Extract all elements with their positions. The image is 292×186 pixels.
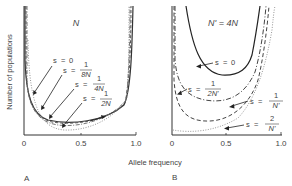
svg-text:=: = [91, 94, 96, 103]
label-b-s2: s = 1 N' [250, 91, 283, 110]
panel-a-letter: A [24, 174, 30, 183]
svg-text:s: s [246, 120, 250, 129]
svg-text:=: = [258, 97, 263, 106]
svg-text:s: s [75, 80, 79, 89]
svg-text:1: 1 [104, 89, 108, 98]
panel-b-tick-1: 1.0 [275, 139, 287, 148]
x-axis-label: Allele frequency [128, 158, 182, 167]
figure-canvas: N s = 0 s = 1 8N s = 1 4N s = 1 2N [0, 0, 292, 186]
label-b-s3: s = 2 N' [246, 114, 279, 133]
panel-b-tick-0: 0 [170, 139, 175, 148]
svg-text:s: s [53, 56, 57, 65]
svg-text:s: s [188, 85, 192, 94]
svg-text:=: = [196, 85, 201, 94]
svg-text:N': N' [273, 101, 280, 110]
svg-text:=: = [254, 120, 259, 129]
panel-a-tick-1: 1.0 [130, 139, 142, 148]
svg-text:2N': 2N' [206, 89, 219, 98]
svg-text:s: s [215, 58, 219, 67]
svg-text:=: = [61, 56, 66, 65]
svg-text:2N: 2N [100, 99, 111, 108]
svg-text:4N: 4N [94, 84, 104, 93]
y-axis-label: Number of populations [5, 34, 14, 110]
svg-text:8N: 8N [81, 70, 91, 79]
svg-text:=: = [223, 58, 228, 67]
panel-a: N s = 0 s = 1 8N s = 1 4N s = 1 2N [22, 6, 142, 183]
svg-text:1: 1 [84, 60, 88, 69]
label-a-s0: s = 0 [53, 56, 73, 65]
panel-b-title: N' = 4N [208, 18, 238, 28]
svg-text:s: s [83, 94, 87, 103]
svg-text:1: 1 [211, 79, 215, 88]
svg-text:0: 0 [69, 56, 73, 65]
panel-a-tick-0: 0 [22, 139, 27, 148]
panel-b-tick-05: 0.5 [220, 139, 232, 148]
svg-text:2: 2 [270, 114, 274, 123]
svg-text:1: 1 [274, 91, 278, 100]
svg-text:N': N' [269, 124, 276, 133]
panel-b: N' = 4N s = 0 s = 1 2N' s = 1 N' s = 2 N… [170, 6, 287, 182]
svg-text:s: s [250, 97, 254, 106]
svg-text:=: = [83, 80, 88, 89]
svg-text:=: = [71, 66, 76, 75]
panel-b-letter: B [172, 173, 177, 182]
svg-text:1: 1 [97, 74, 101, 83]
svg-text:s: s [63, 66, 67, 75]
label-a-s1: s = 1 8N [63, 60, 92, 79]
label-b-s1: s = 1 2N' [188, 79, 221, 98]
svg-text:0: 0 [231, 58, 235, 67]
label-b-s0: s = 0 [215, 58, 235, 67]
panel-a-tick-05: 0.5 [75, 139, 87, 148]
panel-a-title: N [73, 18, 80, 28]
